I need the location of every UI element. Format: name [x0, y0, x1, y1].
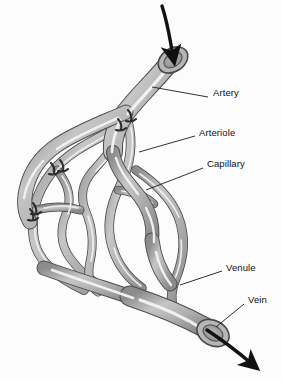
artery-inflow-arrow [162, 6, 173, 56]
venule-vessel [152, 240, 170, 284]
artery-leader-line [152, 87, 208, 97]
label-artery: Artery [213, 87, 239, 98]
label-arteriole: Arteriole [199, 127, 235, 138]
label-venule: Venule [226, 262, 256, 273]
vein-leader-line [216, 304, 244, 327]
venule-leader-line [180, 271, 222, 285]
vessel-group [24, 6, 252, 364]
arteriole-leader-line [139, 136, 195, 152]
microcirculation-figure: Artery Arteriole Capillary Venule Vein [0, 0, 282, 379]
vessel-network-illustration [0, 0, 282, 379]
label-capillary: Capillary [207, 158, 245, 169]
label-vein: Vein [248, 294, 267, 305]
